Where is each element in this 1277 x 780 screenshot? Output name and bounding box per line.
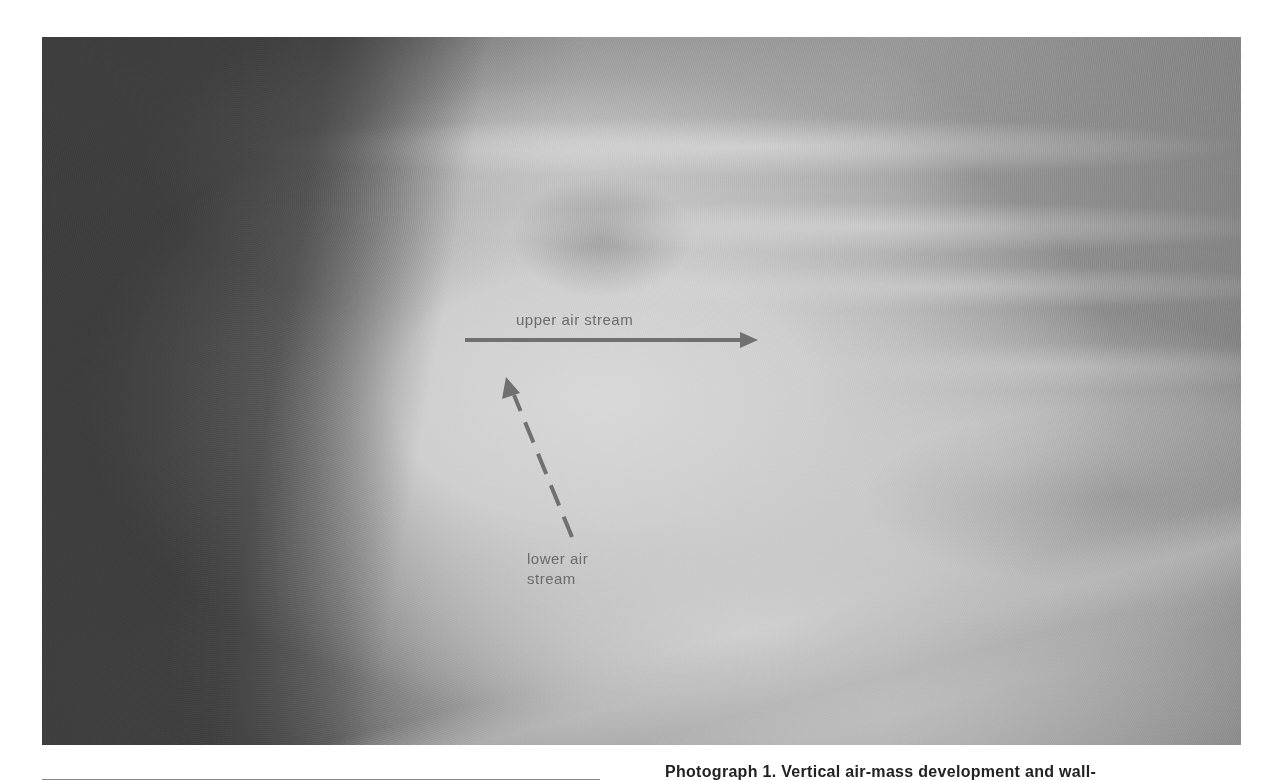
- lower-air-stream-label: lower air stream: [527, 549, 647, 589]
- lower-air-stream-arrow-icon: [502, 377, 572, 537]
- upper-air-stream-arrow-icon: [465, 332, 758, 348]
- figure-caption: Photograph 1. Vertical air-mass developm…: [665, 763, 1096, 780]
- annotation-arrows: [42, 37, 1241, 745]
- lower-label-line-1: lower air: [527, 549, 647, 569]
- lower-label-line-2: stream: [527, 569, 647, 589]
- upper-air-stream-label: upper air stream: [516, 311, 633, 328]
- cloud-photograph: upper air stream lower air stream: [42, 37, 1241, 745]
